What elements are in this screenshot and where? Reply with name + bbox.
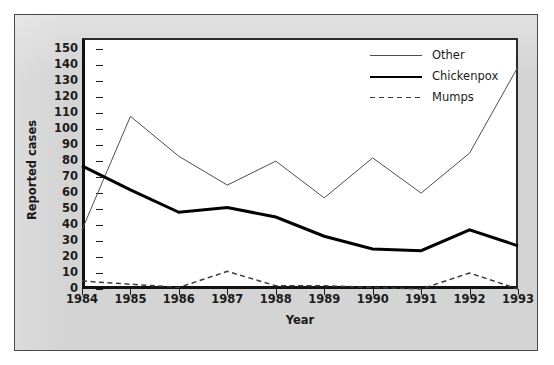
y-tick-label: 40 (34, 219, 78, 231)
x-axis-title: Year (82, 313, 518, 327)
x-tick-mark (227, 289, 228, 295)
y-tick-label: 120 (34, 91, 78, 103)
chart-legend: Other Chickenpox Mumps (370, 44, 510, 107)
x-tick-mark (421, 289, 422, 295)
y-tick-label: 130 (34, 75, 78, 87)
y-axis-title: Reported cases (25, 100, 39, 240)
legend-line-chickenpox-icon (370, 70, 422, 82)
x-tick-label: 1992 (443, 294, 497, 306)
x-tick-mark (470, 289, 471, 295)
y-tick-label: 100 (34, 123, 78, 135)
legend-label-mumps: Mumps (422, 90, 474, 104)
legend-label-chickenpox: Chickenpox (422, 69, 498, 83)
series-line-mumps (82, 271, 518, 289)
x-tick-label: 1990 (346, 294, 400, 306)
x-tick-label: 1985 (103, 294, 157, 306)
x-tick-label: 1984 (55, 294, 109, 306)
legend-line-other-icon (370, 49, 422, 61)
x-tick-label: 1991 (394, 294, 448, 306)
x-tick-mark (276, 289, 277, 295)
y-tick-label: 70 (34, 171, 78, 183)
legend-item-chickenpox: Chickenpox (370, 65, 510, 86)
x-tick-label: 1987 (200, 294, 254, 306)
y-tick-label: 80 (34, 155, 78, 167)
x-tick-mark (130, 289, 131, 295)
chart-figure: 0102030405060708090100110120130140150 Re… (0, 0, 554, 365)
y-tick-mark (96, 289, 103, 290)
y-tick-label: 20 (34, 251, 78, 263)
legend-item-other: Other (370, 44, 510, 65)
legend-item-mumps: Mumps (370, 86, 510, 107)
series-line-chickenpox (82, 166, 518, 251)
y-tick-label: 30 (34, 235, 78, 247)
x-tick-mark (82, 289, 83, 295)
x-tick-label: 1993 (491, 294, 545, 306)
x-tick-mark (373, 289, 374, 295)
y-tick-label: 60 (34, 187, 78, 199)
x-tick-mark (518, 289, 519, 295)
y-tick-label: 10 (34, 267, 78, 279)
y-tick-label: 110 (34, 107, 78, 119)
x-tick-label: 1988 (249, 294, 303, 306)
x-tick-label: 1989 (297, 294, 351, 306)
legend-label-other: Other (422, 48, 465, 62)
x-tick-mark (179, 289, 180, 295)
y-tick-label: 50 (34, 203, 78, 215)
legend-line-mumps-icon (370, 91, 422, 103)
y-tick-label: 150 (34, 43, 78, 55)
y-tick-label: 90 (34, 139, 78, 151)
x-tick-mark (324, 289, 325, 295)
y-tick-label: 140 (34, 59, 78, 71)
x-tick-label: 1986 (152, 294, 206, 306)
